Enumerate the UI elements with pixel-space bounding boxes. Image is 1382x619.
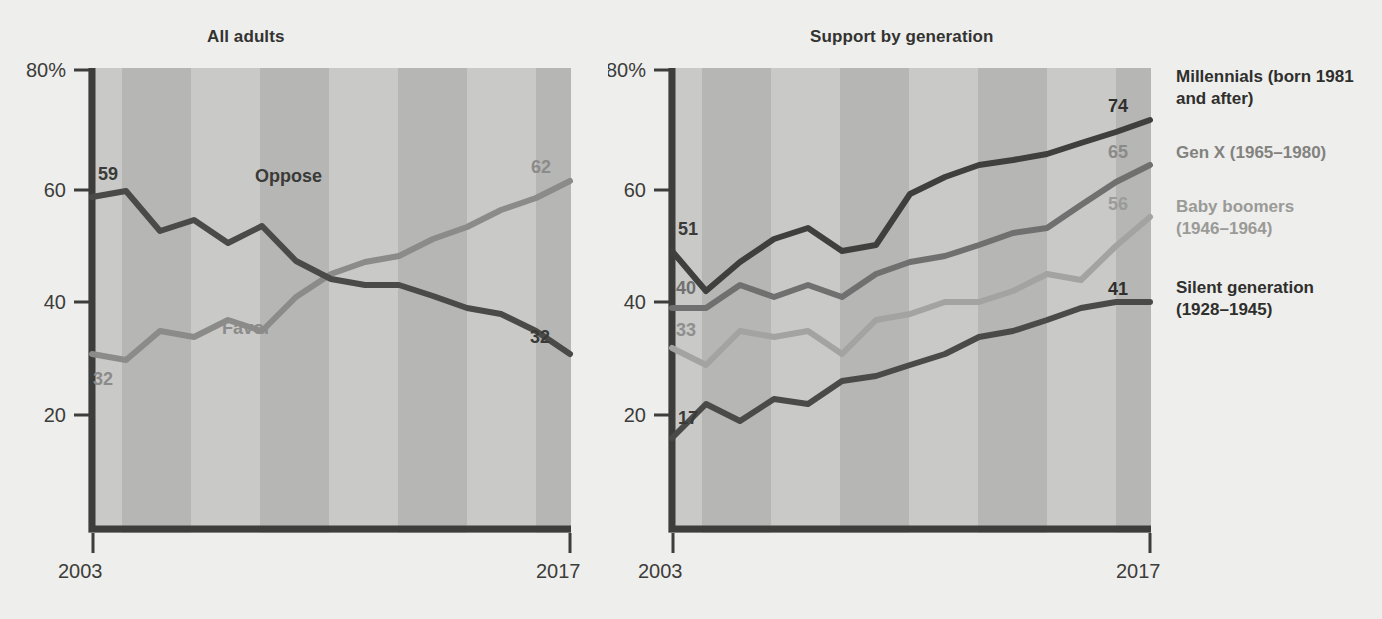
series-label-favor: Favor [222,318,271,338]
y-tick-label: 80% [26,59,66,81]
legend-label-gen-x: Gen X (1965–1980) [1176,142,1326,164]
y-ticks-left: 80% 60 40 20 [26,59,90,426]
legend-label-silent-generation: Silent generation (1928–1945) [1176,277,1314,321]
background-bands-left [88,68,605,533]
y-tick-label: 40 [44,291,66,313]
value-label-silent-start: 17 [678,408,698,428]
value-label-genx-end: 65 [1108,142,1128,162]
x-ticks-left: 2003 2017 [58,533,581,582]
y-tick-label: 80% [608,59,646,81]
value-label-oppose-end: 32 [530,327,550,347]
value-label-boomers-end: 56 [1108,194,1128,214]
value-label-silent-end: 41 [1108,279,1128,299]
x-tick-label: 2003 [58,560,103,582]
x-tick-label: 2017 [1116,560,1161,582]
y-tick-label: 60 [44,179,66,201]
value-label-genx-start: 40 [676,278,696,298]
value-label-favor-end: 62 [531,157,551,177]
x-ticks-right: 2003 2017 [638,533,1161,582]
y-tick-label: 20 [624,404,646,426]
legend-label-baby-boomers: Baby boomers (1946–1964) [1176,196,1294,240]
x-tick-label: 2017 [536,560,581,582]
chart-panel-support-by-generation: Support by generation 80% [608,0,1382,619]
figure-root: All adults 80% 60 [0,0,1382,619]
y-tick-label: 60 [624,179,646,201]
legend-label-millennials: Millennials (born 1981 and after) [1176,66,1354,110]
chart-panel-all-adults: All adults 80% 60 [0,0,620,619]
value-label-oppose-start: 59 [98,164,118,184]
value-label-millennials-start: 51 [678,219,698,239]
value-label-millennials-end: 74 [1108,96,1128,116]
y-ticks-right: 80% 60 40 20 [608,59,670,426]
value-label-favor-start: 32 [93,369,113,389]
y-tick-label: 20 [44,404,66,426]
series-label-oppose: Oppose [255,166,322,186]
y-tick-label: 40 [624,291,646,313]
plot-area-all-adults: 80% 60 40 20 2003 2017 59 32 32 62 Op [0,0,620,619]
value-label-boomers-start: 33 [676,320,696,340]
x-tick-label: 2003 [638,560,683,582]
